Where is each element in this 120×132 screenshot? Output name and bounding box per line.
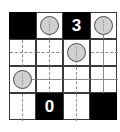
light-bulb-icon bbox=[94, 16, 113, 35]
light-beam-horizontal bbox=[64, 79, 91, 80]
cell-r2c3[interactable] bbox=[90, 66, 117, 93]
clue-number: 0 bbox=[37, 94, 62, 119]
light-beam-vertical bbox=[76, 94, 77, 121]
light-beam-horizontal bbox=[91, 52, 118, 53]
light-beam-horizontal bbox=[10, 52, 37, 53]
light-beam-vertical bbox=[22, 94, 23, 121]
cell-r3c1-black[interactable]: 0 bbox=[36, 93, 63, 120]
puzzle-board: 3 0 bbox=[9, 12, 117, 120]
cell-r3c3-black[interactable] bbox=[90, 93, 117, 120]
light-beam-horizontal bbox=[37, 79, 64, 80]
cell-r0c2-black[interactable]: 3 bbox=[63, 12, 90, 39]
cell-r3c2[interactable] bbox=[63, 93, 90, 120]
cell-r2c0[interactable] bbox=[9, 66, 36, 93]
cell-r1c3[interactable] bbox=[90, 39, 117, 66]
light-beam-vertical bbox=[49, 67, 50, 94]
light-bulb-icon bbox=[13, 70, 32, 89]
light-beam-vertical bbox=[49, 40, 50, 67]
cell-r1c1[interactable] bbox=[36, 39, 63, 66]
light-beam-vertical bbox=[76, 67, 77, 94]
cell-r0c0-black[interactable] bbox=[9, 12, 36, 39]
light-bulb-icon bbox=[67, 43, 86, 62]
cell-r1c2[interactable] bbox=[63, 39, 90, 66]
cell-r2c1[interactable] bbox=[36, 66, 63, 93]
cell-r2c2[interactable] bbox=[63, 66, 90, 93]
light-beam-vertical bbox=[103, 67, 104, 94]
cell-r0c3[interactable] bbox=[90, 12, 117, 39]
light-beam-vertical bbox=[22, 40, 23, 67]
light-beam-horizontal bbox=[91, 79, 118, 80]
light-beam-vertical bbox=[103, 40, 104, 67]
light-bulb-icon bbox=[40, 16, 59, 35]
cell-r3c0[interactable] bbox=[9, 93, 36, 120]
cell-r1c0[interactable] bbox=[9, 39, 36, 66]
clue-number: 3 bbox=[64, 13, 89, 38]
light-beam-horizontal bbox=[37, 52, 64, 53]
cell-r0c1[interactable] bbox=[36, 12, 63, 39]
